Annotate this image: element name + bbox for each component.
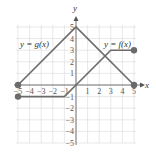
y-tick-label: 4 xyxy=(70,35,74,44)
y-tick-label: −5 xyxy=(65,139,74,148)
x-tick-label: 2 xyxy=(97,87,101,96)
f-label: y = f(x) xyxy=(103,39,131,49)
x-tick-label: −3 xyxy=(37,87,46,96)
y-tick-label: −4 xyxy=(65,127,74,136)
closed-endpoint-dot xyxy=(15,82,21,88)
closed-endpoint-dot xyxy=(15,93,21,99)
x-tick-label: 3 xyxy=(109,87,113,96)
closed-endpoint-dot xyxy=(131,82,137,88)
x-tick-label: 4 xyxy=(120,87,124,96)
y-axis-arrow-icon xyxy=(74,16,79,21)
function-graph: −5−4−3−2−112345−5−4−3−2−112345 y = g(x) … xyxy=(0,0,156,156)
y-tick-label: 3 xyxy=(70,46,74,55)
y-tick-label: 2 xyxy=(70,58,74,67)
x-tick-label: 5 xyxy=(132,87,136,96)
x-tick-label: −2 xyxy=(49,87,58,96)
g-label: y = g(x) xyxy=(19,39,49,49)
closed-endpoint-dot xyxy=(131,47,137,53)
x-tick-label: 1 xyxy=(86,87,90,96)
x-tick-label: −4 xyxy=(25,87,34,96)
y-tick-label: −2 xyxy=(65,104,74,113)
y-tick-label: 1 xyxy=(70,69,74,78)
y-tick-label: −3 xyxy=(65,116,74,125)
y-axis-label: y xyxy=(72,3,77,13)
x-axis-label: x xyxy=(144,80,149,90)
